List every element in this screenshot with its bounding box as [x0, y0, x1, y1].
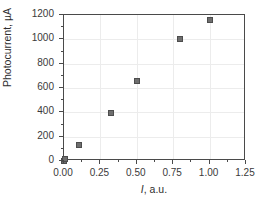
x-axis-tick-label: 1.25 [235, 168, 254, 178]
data-point [108, 110, 114, 116]
y-axis-minor-tick [61, 148, 63, 149]
x-axis-minor-tick [154, 160, 155, 162]
y-axis-tick [59, 136, 63, 137]
x-axis-tick [99, 160, 100, 164]
data-point [177, 36, 183, 42]
y-axis-minor-tick [61, 26, 63, 27]
y-axis-minor-tick [61, 124, 63, 125]
x-axis-tick-label: 1.00 [199, 168, 218, 178]
y-axis-tick-label: 1000 [0, 33, 54, 43]
y-axis-tick-label: 600 [0, 82, 54, 92]
x-axis-tick [172, 160, 173, 164]
y-axis-tick-label: 800 [0, 58, 54, 68]
data-point [76, 142, 82, 148]
x-axis-tick [63, 160, 64, 164]
x-axis-title: I, a.u. [63, 184, 245, 195]
x-axis-minor-tick [81, 160, 82, 162]
y-axis-tick [59, 111, 63, 112]
x-axis-tick-label: 0.75 [162, 168, 181, 178]
y-axis-tick-label: 200 [0, 131, 54, 141]
x-axis-title-units: , a.u. [144, 183, 167, 195]
data-point [134, 78, 140, 84]
y-axis-tick [59, 87, 63, 88]
y-axis-tick-label: 0 [0, 155, 54, 165]
photocurrent-scatter-chart: Photocurrent, µA 0200400600800100012000.… [0, 0, 266, 205]
x-axis-tick [209, 160, 210, 164]
x-axis-tick-label: 0.25 [90, 168, 109, 178]
y-axis-tick [59, 14, 63, 15]
x-axis-minor-tick [227, 160, 228, 162]
y-axis-tick [59, 63, 63, 64]
plot-area [63, 14, 245, 160]
y-axis-minor-tick [61, 51, 63, 52]
x-axis-minor-tick [118, 160, 119, 162]
x-axis-minor-tick [190, 160, 191, 162]
x-axis-tick-label: 0.00 [53, 168, 72, 178]
y-axis-tick [59, 38, 63, 39]
y-axis-minor-tick [61, 99, 63, 100]
y-axis-tick-label: 1200 [0, 9, 54, 19]
x-axis-tick [136, 160, 137, 164]
data-point [207, 17, 213, 23]
x-axis-tick [245, 160, 246, 164]
data-markers [64, 15, 244, 159]
y-axis-minor-tick [61, 75, 63, 76]
y-axis-tick-label: 400 [0, 106, 54, 116]
x-axis-tick-label: 0.50 [126, 168, 145, 178]
